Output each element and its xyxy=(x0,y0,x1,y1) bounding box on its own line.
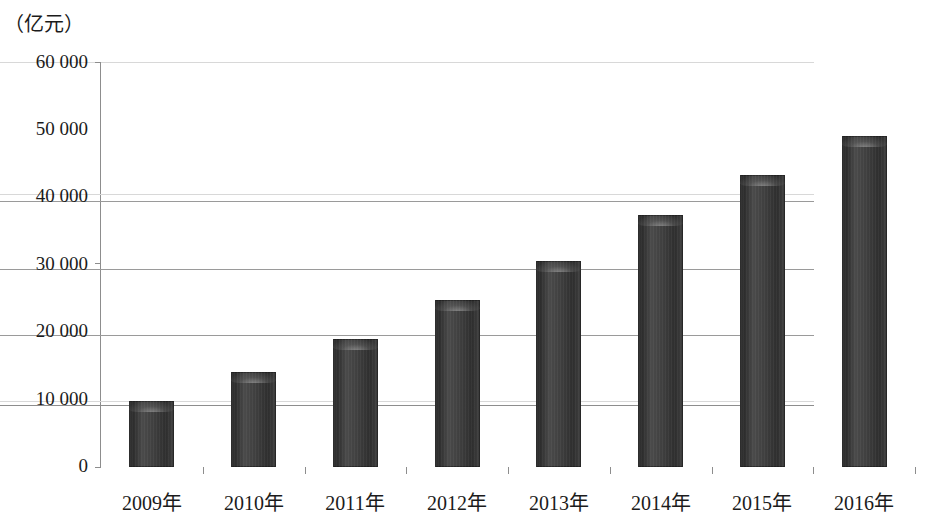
x-tickmark-6 xyxy=(712,467,713,474)
y-tickmark-30000 xyxy=(95,263,101,264)
gridline-50000 xyxy=(0,194,814,195)
x-axis-label-2012年: 2012年 xyxy=(427,487,487,516)
x-axis-label-2014年: 2014年 xyxy=(631,487,691,516)
x-axis-label-2015年: 2015年 xyxy=(732,487,792,516)
gridline-30000 xyxy=(0,269,814,270)
bar-2016年 xyxy=(842,136,887,467)
y-axis-line xyxy=(100,62,101,468)
x-axis-label-2009年: 2009年 xyxy=(122,487,182,516)
bar-2014年 xyxy=(638,215,683,467)
bar-2011年 xyxy=(333,339,378,467)
y-tick-label-30000: 30 000 xyxy=(0,253,88,275)
x-tickmark-4 xyxy=(508,467,509,474)
bar-2013年 xyxy=(536,261,581,467)
gridline-10000 xyxy=(0,401,814,402)
x-tickmark-5 xyxy=(610,467,611,474)
gridline-40000 xyxy=(0,201,814,202)
x-tickmark-8 xyxy=(915,467,916,474)
bar-2015年 xyxy=(740,175,785,467)
y-tick-label-0: 0 xyxy=(0,455,88,477)
y-axis-unit-label: （亿元） xyxy=(4,8,84,37)
gridline-20000 xyxy=(0,335,814,336)
y-tick-label-60000: 60 000 xyxy=(0,51,88,73)
bar-2010年 xyxy=(231,372,276,467)
x-axis-label-2016年: 2016年 xyxy=(834,487,894,516)
y-tick-label-20000: 20 000 xyxy=(0,320,88,342)
y-tick-label-10000: 10 000 xyxy=(0,388,88,410)
bar-2009年 xyxy=(129,401,174,467)
x-tickmark-3 xyxy=(406,467,407,474)
gridline-0-baseline xyxy=(0,405,814,406)
y-tickmark-60000 xyxy=(95,62,101,63)
bar-2012年 xyxy=(435,300,480,467)
x-axis-label-2011年: 2011年 xyxy=(325,487,384,516)
x-tickmark-2 xyxy=(305,467,306,474)
x-axis-label-2013年: 2013年 xyxy=(529,487,589,516)
y-tick-label-40000: 40 000 xyxy=(0,185,88,207)
y-tick-label-50000: 50 000 xyxy=(0,118,88,140)
x-axis-label-2010年: 2010年 xyxy=(224,487,284,516)
bar-chart: （亿元） 60 000 50 000 40 000 30 000 20 000 … xyxy=(0,0,926,524)
x-tickmark-1 xyxy=(203,467,204,474)
gridline-60000 xyxy=(0,62,814,63)
y-tickmark-0 xyxy=(95,467,101,468)
x-tickmark-7 xyxy=(813,467,814,474)
